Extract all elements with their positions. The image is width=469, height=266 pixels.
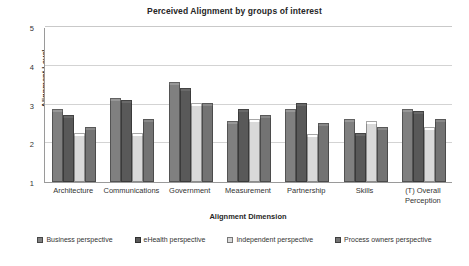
bar[interactable] — [355, 133, 366, 183]
bar[interactable] — [344, 119, 355, 182]
x-tick-label: Communications — [102, 186, 160, 196]
chart-title: Perceived Alignment by groups of interes… — [0, 6, 469, 16]
x-axis-title: Alignment Dimension — [44, 212, 452, 221]
bar[interactable] — [307, 134, 318, 182]
bar[interactable] — [435, 119, 446, 182]
legend-label: eHealth perspective — [144, 236, 206, 243]
bar-face — [132, 136, 143, 183]
legend-item[interactable]: Independent perspective — [227, 236, 313, 243]
bar-face — [110, 101, 121, 182]
bar-face — [355, 136, 366, 183]
bar[interactable] — [85, 127, 96, 182]
x-tick-label: Architecture — [44, 186, 102, 196]
bar-group — [220, 28, 278, 182]
legend-item[interactable]: Business perspective — [37, 236, 112, 243]
bar-face — [402, 112, 413, 182]
legend-label: Process owners perspective — [344, 236, 432, 243]
bar-group — [278, 28, 336, 182]
bar-face — [121, 103, 132, 182]
legend-swatch-icon — [227, 237, 233, 243]
bar-face — [424, 130, 435, 182]
y-tick-label: 2 — [30, 140, 34, 149]
bar[interactable] — [249, 119, 260, 182]
bar-face — [63, 118, 74, 182]
bar[interactable] — [180, 88, 191, 182]
bar[interactable] — [424, 127, 435, 182]
bar-face — [285, 112, 296, 182]
bar-face — [85, 130, 96, 182]
bar-face — [413, 114, 424, 182]
chart-legend: Business perspectiveeHealth perspectiveI… — [0, 236, 469, 243]
bar-face — [180, 91, 191, 182]
bar[interactable] — [169, 82, 180, 182]
bar[interactable] — [110, 98, 121, 182]
legend-swatch-icon — [37, 237, 43, 243]
bar-face — [143, 122, 154, 182]
x-tick-label: Partnership — [277, 186, 335, 196]
bar-chart: Perceived Alignment by groups of interes… — [0, 0, 469, 266]
bar-face — [52, 112, 63, 182]
bar-face — [249, 122, 260, 182]
y-tick-label: 5 — [30, 24, 34, 33]
x-tick-label: (T) Overall Perception — [394, 186, 452, 206]
bar-face — [227, 124, 238, 182]
bar-group — [45, 28, 103, 182]
bar-group — [395, 28, 453, 182]
bar[interactable] — [413, 111, 424, 182]
bar[interactable] — [318, 123, 329, 182]
bar-face — [202, 106, 213, 182]
bar-face — [238, 112, 249, 182]
legend-label: Independent perspective — [236, 236, 313, 243]
legend-item[interactable]: Process owners perspective — [335, 236, 432, 243]
gridline-5 — [45, 26, 452, 27]
bar[interactable] — [296, 103, 307, 182]
bar-face — [366, 124, 377, 182]
bar[interactable] — [63, 115, 74, 182]
bar-group — [103, 28, 161, 182]
x-tick-label: Government — [161, 186, 219, 196]
bar[interactable] — [285, 109, 296, 182]
legend-item[interactable]: eHealth perspective — [135, 236, 206, 243]
bar-group — [162, 28, 220, 182]
bar[interactable] — [227, 121, 238, 182]
y-tick-label: 3 — [30, 101, 34, 110]
bar-face — [169, 85, 180, 182]
bar[interactable] — [52, 109, 63, 182]
bar-face — [344, 122, 355, 182]
legend-swatch-icon — [135, 237, 141, 243]
x-tick-label: Skills — [335, 186, 393, 196]
bar-face — [377, 130, 388, 182]
bar-group — [336, 28, 394, 182]
bar-face — [296, 106, 307, 182]
bar[interactable] — [202, 103, 213, 182]
bar-face — [191, 106, 202, 182]
y-tick-label: 1 — [30, 179, 34, 188]
legend-label: Business perspective — [46, 236, 112, 243]
bar-face — [260, 118, 271, 182]
bar-face — [318, 126, 329, 182]
bar[interactable] — [238, 109, 249, 182]
bar-face — [74, 136, 85, 183]
x-tick-label: Measurement — [219, 186, 277, 196]
bar[interactable] — [377, 127, 388, 182]
bar[interactable] — [260, 115, 271, 182]
bar[interactable] — [191, 103, 202, 182]
y-axis-tick-labels: 12345 — [0, 28, 40, 183]
y-tick-label: 4 — [30, 62, 34, 71]
legend-swatch-icon — [335, 237, 341, 243]
bar-face — [435, 122, 446, 182]
plot-area — [44, 28, 452, 183]
bar[interactable] — [121, 100, 132, 182]
bar[interactable] — [143, 119, 154, 182]
bar[interactable] — [132, 133, 143, 183]
bar-face — [307, 137, 318, 182]
bar[interactable] — [366, 121, 377, 182]
bar[interactable] — [74, 133, 85, 183]
bar[interactable] — [402, 109, 413, 182]
